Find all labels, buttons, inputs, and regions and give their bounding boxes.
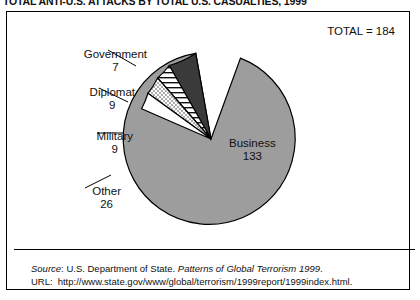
slice-label-military: Military 9 [97, 130, 133, 156]
slice-label-military-name: Military [97, 130, 133, 142]
source-publication: Patterns of Global Terrorism 1999 [178, 263, 320, 274]
slice-label-business: Business 133 [229, 137, 276, 163]
slice-label-business-name: Business [229, 137, 276, 149]
slice-label-government-value: 7 [84, 61, 147, 74]
footer-divider [14, 249, 415, 250]
url-value[interactable]: http://www.state.gov/www/global/terroris… [58, 276, 353, 287]
figure-container: TOTAL ANTI-U.S. ATTACKS BY TOTAL U.S. CA… [0, 0, 420, 300]
slice-label-government: Government 7 [84, 48, 147, 74]
url-row: URL:http://www.state.gov/www/global/terr… [31, 276, 352, 289]
slice-label-other-value: 26 [92, 198, 121, 211]
slice-label-government-name: Government [84, 48, 147, 60]
url-label: URL: [31, 276, 53, 287]
slice-label-business-value: 133 [229, 150, 276, 163]
slice-label-other: Other 26 [92, 185, 121, 211]
slice-label-military-value: 9 [97, 143, 133, 156]
slice-label-diplomat-value: 9 [90, 99, 135, 112]
source-organization: U.S. Department of State. [66, 263, 177, 274]
source-row: Source: U.S. Department of State. Patter… [31, 263, 323, 274]
source-note: Source: U.S. Department of State. Patter… [31, 263, 352, 288]
page-title: TOTAL ANTI-U.S. ATTACKS BY TOTAL U.S. CA… [3, 0, 417, 7]
slice-label-diplomat-name: Diplomat [90, 86, 135, 98]
source-prefix: Source [31, 263, 61, 274]
slice-label-diplomat: Diplomat 9 [90, 86, 135, 112]
slice-label-other-name: Other [92, 185, 121, 197]
chart-frame: TOTAL = 184 [6, 11, 410, 290]
source-terminator: . [320, 263, 323, 274]
